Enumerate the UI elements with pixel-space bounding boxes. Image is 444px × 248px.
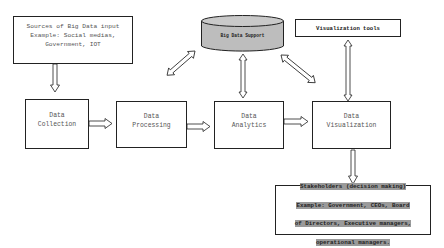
data-collection-label: Data Collection (38, 111, 76, 129)
stakeholders-line-1: Stakeholders (decision making) (300, 183, 406, 190)
arrow-support-visualization (278, 52, 318, 87)
data-processing-box: Data Processing (116, 101, 187, 148)
data-collection-box: Data Collection (25, 99, 89, 149)
arrow-analytics-to-visualization (284, 117, 308, 127)
sources-label: Sources of Big Data input Example: Socia… (27, 22, 120, 49)
stakeholders-line-4: operational managers. (316, 239, 390, 246)
visualization-tools-box: Visualization tools (295, 19, 401, 37)
stakeholders-line-3: of Directors, Executive managers, (295, 220, 412, 227)
arrow-support-analytics (239, 54, 247, 98)
data-visualization-box: Data Visualization (312, 101, 391, 149)
data-analytics-box: Data Analytics (214, 101, 284, 149)
stakeholders-line-2: Example: Government, CEOs, Board (296, 202, 409, 209)
arrow-collection-to-processing (89, 119, 112, 129)
data-processing-label: Data Processing (132, 112, 170, 130)
arrow-viztools-visualization (344, 40, 352, 101)
arrow-support-processing (164, 48, 198, 79)
data-analytics-label: Data Analytics (232, 112, 267, 130)
visualization-tools-label: Visualization tools (316, 24, 380, 33)
stakeholders-box: Stakeholders (decision making) Example: … (275, 185, 431, 235)
arrow-sources-to-collection (51, 64, 60, 92)
sources-box: Sources of Big Data input Example: Socia… (13, 16, 133, 64)
arrow-processing-to-analytics (187, 122, 210, 132)
big-data-support-label: Big Data Support (200, 33, 285, 38)
data-visualization-label: Data Visualization (327, 112, 377, 130)
